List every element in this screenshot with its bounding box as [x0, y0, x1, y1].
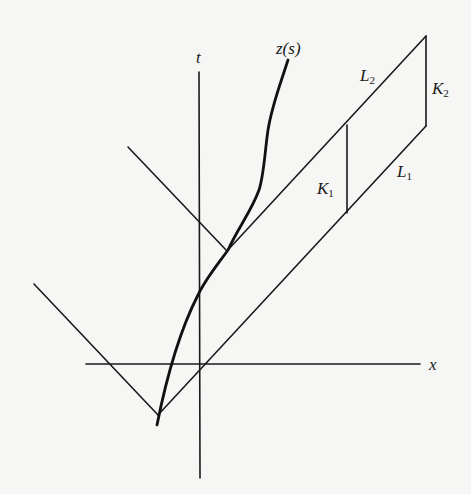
label-K1-main: K	[317, 179, 328, 198]
label-L1: L1	[397, 163, 412, 182]
curve-label: z(s)	[276, 40, 301, 57]
label-K2-main: K	[432, 79, 443, 98]
spacetime-diagram: t x z(s) L2 K2 K1 L1	[0, 0, 471, 494]
label-L2: L2	[360, 67, 375, 86]
label-K2-sub: 2	[443, 87, 449, 99]
x-axis-label: x	[429, 356, 437, 373]
label-L1-sub: 1	[406, 170, 412, 182]
t-axis	[199, 72, 200, 478]
label-K2: K2	[432, 80, 449, 99]
line-L2	[227, 36, 426, 251]
label-K1-sub: 1	[328, 187, 334, 199]
diagram-svg	[0, 0, 471, 494]
t-axis-label: t	[196, 49, 201, 66]
line-L1	[158, 126, 426, 415]
upper-light-line	[128, 147, 227, 251]
past-light-line	[34, 284, 158, 415]
label-L2-sub: 2	[369, 74, 375, 86]
worldline-z-curve	[157, 60, 288, 425]
label-K1: K1	[317, 180, 334, 199]
